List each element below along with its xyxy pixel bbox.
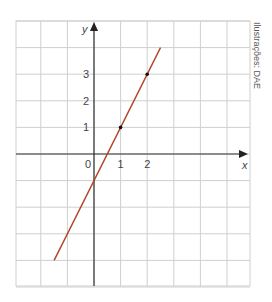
y-axis-label: y	[81, 23, 89, 35]
image-credit: Ilustrações: DAE	[252, 22, 262, 89]
x-tick-label: 2	[144, 158, 150, 170]
x-axis-arrow-icon	[239, 150, 248, 158]
marked-point	[145, 72, 149, 76]
y-axis-arrow-icon	[90, 22, 98, 31]
x-tick-label: 0	[85, 158, 91, 170]
x-axis-label: x	[241, 159, 248, 171]
y-tick-label: 3	[83, 68, 89, 80]
tick-labels: 012123xy	[81, 23, 248, 171]
x-tick-label: 1	[118, 158, 124, 170]
marked-point	[119, 126, 123, 130]
coordinate-plane: 012123xy	[0, 0, 272, 302]
y-tick-label: 1	[83, 121, 89, 133]
y-tick-label: 2	[83, 95, 89, 107]
axes	[16, 22, 248, 286]
